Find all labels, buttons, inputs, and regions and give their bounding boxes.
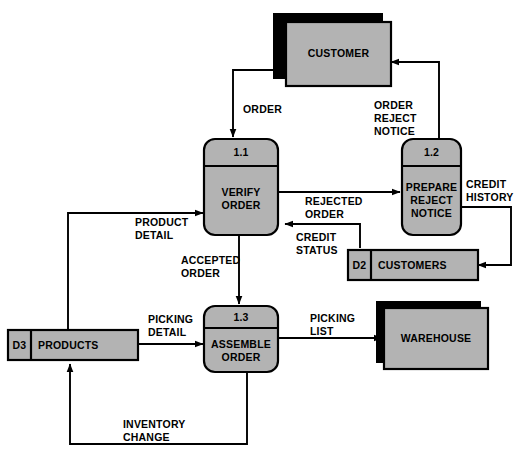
flow-label-picking-list-line1: PICKING	[310, 312, 355, 325]
flow-label-product-detail-line2: DETAIL	[135, 229, 173, 242]
flow-label-rejected-order-line2: ORDER	[305, 208, 344, 221]
datastore-d3-label: PRODUCTS	[38, 339, 99, 352]
process-1-1-number: 1.1	[204, 146, 278, 159]
flow-label-order: ORDER	[243, 103, 282, 116]
flow-label-rejected-order-line1: REJECTED	[305, 195, 363, 208]
external-entity-customer-label: CUSTOMER	[286, 47, 391, 60]
flow-label-accepted-order-line2: ORDER	[181, 267, 220, 280]
flow-label-order-reject-notice-line1: ORDER	[374, 99, 413, 112]
flow-label-product-detail-line1: PRODUCT	[135, 216, 188, 229]
flow-label-credit-history-line1: CREDIT	[466, 178, 506, 191]
flow-label-order-reject-notice-line2: REJECT	[374, 112, 417, 125]
flow-label-credit-status-line2: STATUS	[296, 244, 338, 257]
datastore-d3-code: D3	[8, 339, 31, 352]
process-1-3-number: 1.3	[204, 311, 278, 324]
flow-label-inventory-change-line1: INVENTORY	[123, 418, 185, 431]
flow-label-credit-history-line2: HISTORY	[466, 191, 514, 204]
diagram-svg	[0, 0, 527, 460]
flow-label-picking-list-line2: LIST	[310, 325, 334, 338]
flow-label-inventory-change-line2: CHANGE	[123, 431, 170, 444]
process-1-3-label-line2: ORDER	[199, 351, 283, 364]
datastore-d2-label: CUSTOMERS	[378, 259, 447, 272]
process-1-1-label-line1: VERIFY	[204, 186, 278, 199]
process-1-2-label-line3: NOTICE	[400, 207, 463, 220]
external-entity-warehouse-label: WAREHOUSE	[384, 332, 488, 345]
process-1-2-label-line1: PREPARE	[400, 181, 463, 194]
flow-label-picking-detail-line1: PICKING	[148, 313, 193, 326]
datastore-d2-code: D2	[348, 259, 371, 272]
process-1-3-label-line1: ASSEMBLE	[199, 338, 283, 351]
process-1-1-label-line2: ORDER	[204, 199, 278, 212]
process-1-2-number: 1.2	[402, 146, 461, 159]
flow-label-accepted-order-line1: ACCEPTED	[181, 254, 240, 267]
flow-label-order-reject-notice-line3: NOTICE	[374, 125, 415, 138]
flow-label-credit-status-line1: CREDIT	[296, 231, 336, 244]
process-1-2-label-line2: REJECT	[400, 194, 463, 207]
dfd-canvas: CUSTOMER WAREHOUSE 1.1 VERIFY ORDER 1.2 …	[0, 0, 527, 460]
flow-label-picking-detail-line2: DETAIL	[148, 326, 186, 339]
